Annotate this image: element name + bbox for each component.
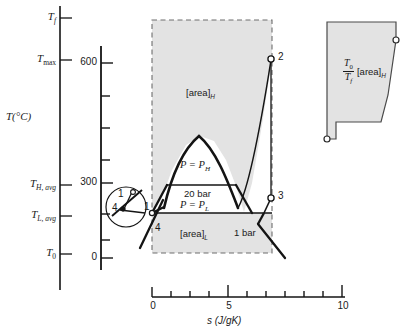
state-point-1-marker [149,210,154,215]
state-point-label-3: 3 [278,191,284,201]
entropy-axis-ticks [152,285,342,297]
axis-label-tl-avg: TL, avg [0,209,56,223]
ts-diagram-figure: Tf Tmax T(°C) TH, avg TL, avg T0 600 300… [0,0,409,333]
inset-fraction-denominator: Tf [343,72,354,85]
reference-temperature-axis-ticks [60,18,72,254]
annotation-pressure-low: 1 bar [234,228,256,238]
magnifier-label-4: 4 [112,203,118,213]
inset-fraction-numerator: T0 [343,58,354,72]
state-point-2-marker [268,56,274,62]
axis-label-tf: Tf [16,11,56,25]
inset-expression: T0 Tf [area]H [343,58,386,85]
annotation-area-h: [area]H [186,88,215,100]
axis-label-entropy: s (J/gK) [207,316,241,326]
axis-label-temperature: T(°C) [6,111,56,122]
xtick-label-0: 0 [146,301,160,311]
state-point-label-4: 4 [155,223,161,233]
ytick-label-0: 0 [72,252,97,262]
state-point-3-marker [268,195,274,201]
inset-area-label: [area]H [357,66,386,77]
magnifier-point-4 [121,207,125,211]
magnifier-point-1 [131,190,136,195]
annotation-p-high: P = PH [180,160,210,173]
axis-label-t0: T0 [14,247,56,261]
inset-fraction: T0 Tf [343,58,354,85]
ytick-label-300: 300 [72,177,97,187]
annotation-area-l: [area]L [180,229,208,241]
xtick-label-10: 10 [334,301,352,311]
state-point-label-1: 1 [144,202,150,212]
annotation-p-low: P = PL [180,200,209,213]
inset-point-lower-marker [324,136,330,142]
inset-point-upper-marker [393,37,399,43]
state-point-label-2: 2 [278,52,284,62]
ytick-label-600: 600 [72,57,97,67]
axis-label-th-avg: TH, avg [0,178,56,192]
axis-label-tmax: Tmax [6,53,56,67]
temperature-axis-ticks [101,63,113,258]
annotation-pressure-high: 20 bar [184,189,211,199]
xtick-label-5: 5 [222,301,236,311]
magnifier-label-1: 1 [118,189,124,199]
